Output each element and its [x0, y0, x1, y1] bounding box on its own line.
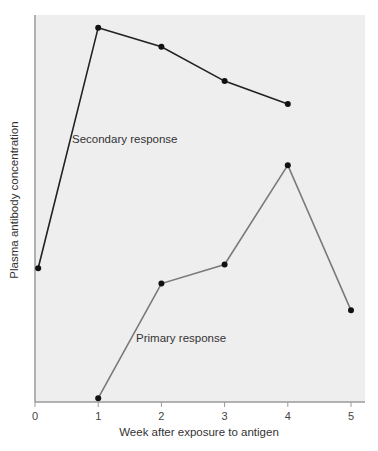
data-point [35, 265, 41, 271]
x-tick-label: 1 [95, 410, 101, 422]
data-point [222, 78, 228, 84]
data-point [348, 307, 354, 313]
x-tick-label: 4 [285, 410, 291, 422]
primary-response-label: Primary response [136, 332, 226, 344]
x-tick-label: 0 [32, 410, 38, 422]
x-tick-label: 3 [222, 410, 228, 422]
secondary-response-label: Secondary response [72, 133, 177, 145]
data-point [285, 162, 291, 168]
data-point [95, 25, 101, 31]
data-point [222, 261, 228, 267]
x-axis-label: Week after exposure to antigen [0, 426, 378, 438]
data-point [158, 44, 164, 50]
chart-canvas: 012345 [0, 0, 378, 451]
x-tick-label: 5 [348, 410, 354, 422]
data-point [285, 101, 291, 107]
y-axis-label: Plasma antibody concentration [6, 0, 22, 451]
data-point [158, 281, 164, 287]
data-point [95, 395, 101, 401]
x-tick-label: 2 [158, 410, 164, 422]
